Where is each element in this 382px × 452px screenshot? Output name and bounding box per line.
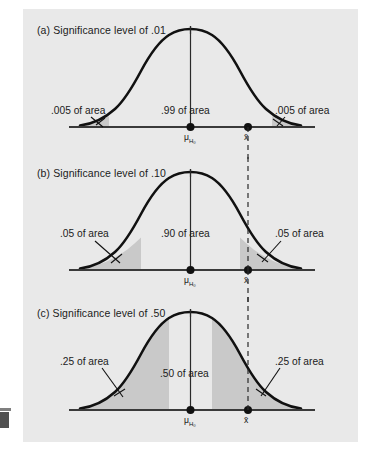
panel-c-left-tail-label: .25 of area [60, 356, 109, 367]
panel-c-plot: .25 of area .50 of area .25 of area μH₀ … [23, 297, 358, 442]
panel-a-center-label: .99 of area [161, 105, 210, 116]
panel-c-mu-label: μH₀ [184, 415, 196, 427]
panel-a-left-tail-label: .005 of area [51, 105, 106, 116]
panel-a-mu-label: μH₀ [184, 132, 196, 144]
panel-a-mu-dot [187, 123, 195, 131]
panel-b-right-tail-label: .05 of area [275, 228, 324, 239]
panel-c-center-label: .50 of area [160, 368, 209, 379]
scan-edge-mark [0, 412, 9, 428]
panel-b-center-label: .90 of area [161, 228, 210, 239]
scan-edge-mark-top [0, 408, 11, 411]
panel-c-xbar-label: x̄ [244, 415, 249, 425]
panel-b-mu-dot [187, 266, 195, 274]
panel-b-mu-label: μH₀ [184, 275, 196, 287]
panel-a-right-tail-label: .005 of area [275, 105, 330, 116]
panel-b-plot: .05 of area .90 of area .05 of area μH₀ … [23, 157, 358, 302]
figure-panel: (a) Significance level of .01 .005 of ar… [23, 9, 358, 442]
panel-c-right-leader [261, 368, 280, 396]
chart-panel-c: (c) Significance level of .50 .25 of are… [23, 297, 358, 442]
panel-a-plot: .005 of area .99 of area .005 of area μH… [23, 14, 358, 159]
panel-c-mu-dot [187, 406, 195, 414]
chart-panel-a: (a) Significance level of .01 .005 of ar… [23, 14, 358, 159]
panel-c-right-tail-label: .25 of area [275, 356, 324, 367]
panel-b-left-tail-label: .05 of area [60, 228, 109, 239]
chart-panel-b: (b) Significance level of .10 .05 of are… [23, 157, 358, 302]
